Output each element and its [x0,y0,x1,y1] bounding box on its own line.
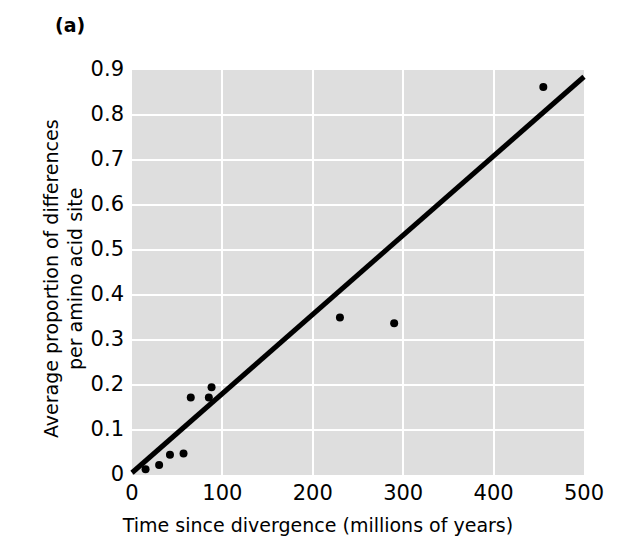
y-axis-title-line-2: per amino acid site [64,69,88,489]
data-point [205,394,213,402]
x-axis-title: Time since divergence (millions of years… [0,516,636,535]
data-point [166,451,174,459]
x-axis-tick-label: 400 [459,483,529,504]
x-axis-tick-label: 200 [278,483,348,504]
data-point [155,461,163,469]
y-axis-title-line-1: Average proportion of differences [40,69,64,489]
plot-graphics [132,70,584,475]
x-axis-tick-labels: 0100200300400500 [0,483,636,513]
x-axis-tick-label: 500 [549,483,619,504]
y-axis-title: Average proportion of differences per am… [40,69,88,489]
plot-region [132,70,584,475]
data-points-group [142,83,548,473]
data-point [142,465,150,473]
data-point [187,394,195,402]
data-point [390,319,398,327]
data-point [180,449,188,457]
x-axis-tick-label: 300 [368,483,438,504]
data-point [539,83,547,91]
x-axis-tick-label: 100 [187,483,257,504]
x-axis-tick-label: 0 [97,483,167,504]
data-point [336,314,344,322]
data-point [208,383,216,391]
trendline-group [132,77,584,473]
figure-panel-a: (a) 00.10.20.30.40.50.60.70.80.9 0100200… [0,0,636,551]
regression-line [132,77,584,473]
